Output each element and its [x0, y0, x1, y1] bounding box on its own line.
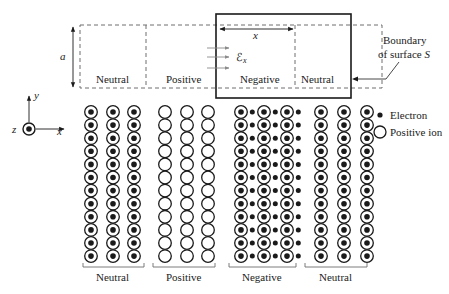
boundary-leader-arrowhead	[352, 77, 358, 82]
coordinate-axes: y x z	[11, 89, 64, 137]
bound-electron-icon	[318, 175, 324, 181]
positive-ion-icon	[159, 132, 172, 145]
excess-electron-icon	[273, 149, 278, 154]
bound-electron-icon	[88, 109, 94, 115]
positive-ion-icon	[202, 197, 215, 210]
bound-electron-icon	[284, 240, 290, 246]
excess-electron-icon	[296, 227, 301, 232]
bound-electron-icon	[341, 227, 347, 233]
positive-ion-icon	[181, 184, 194, 197]
bound-electron-icon	[110, 188, 116, 194]
lattice-group-neutral	[315, 106, 374, 263]
excess-electron-icon	[250, 254, 255, 259]
electron-legend-icon	[377, 112, 382, 117]
region-label-neutral-right: Neutral	[301, 73, 334, 85]
positive-ion-icon	[202, 158, 215, 171]
bound-electron-icon	[110, 227, 116, 233]
bound-electron-icon	[318, 227, 324, 233]
bound-electron-icon	[88, 253, 94, 259]
bound-electron-icon	[364, 135, 370, 141]
bound-electron-icon	[131, 188, 137, 194]
positive-ion-icon	[202, 224, 215, 237]
bound-electron-icon	[238, 253, 244, 259]
bound-electron-icon	[110, 122, 116, 128]
bound-electron-icon	[284, 227, 290, 233]
positive-ion-icon	[181, 211, 194, 224]
bound-electron-icon	[110, 109, 116, 115]
bound-electron-icon	[364, 122, 370, 128]
bound-electron-icon	[261, 122, 267, 128]
electron-legend-label: Electron	[390, 109, 428, 121]
bound-electron-icon	[318, 201, 324, 207]
bound-electron-icon	[110, 135, 116, 141]
excess-electron-icon	[296, 188, 301, 193]
bound-electron-icon	[261, 227, 267, 233]
excess-electron-icon	[250, 188, 255, 193]
bound-electron-icon	[238, 122, 244, 128]
positive-ion-icon	[159, 106, 172, 119]
positive-ion-icon	[202, 250, 215, 263]
bound-electron-icon	[88, 188, 94, 194]
excess-electron-icon	[273, 241, 278, 246]
bound-electron-icon	[284, 135, 290, 141]
bound-electron-icon	[238, 214, 244, 220]
positive-ion-icon	[159, 224, 172, 237]
bound-electron-icon	[318, 109, 324, 115]
y-axis-label: y	[33, 89, 39, 101]
positive-ion-icon	[159, 119, 172, 132]
bracket-neutral-left	[83, 263, 144, 267]
height-label: a	[60, 50, 66, 62]
bound-electron-icon	[364, 253, 370, 259]
bound-electron-icon	[341, 240, 347, 246]
bound-electron-icon	[131, 214, 137, 220]
excess-electron-icon	[296, 149, 301, 154]
bound-electron-icon	[364, 162, 370, 168]
bound-electron-icon	[110, 240, 116, 246]
bound-electron-icon	[88, 175, 94, 181]
excess-electron-icon	[296, 162, 301, 167]
bound-electron-icon	[238, 201, 244, 207]
bound-electron-icon	[341, 162, 347, 168]
excess-electron-icon	[296, 201, 301, 206]
positive-ion-icon	[159, 211, 172, 224]
excess-electron-icon	[273, 175, 278, 180]
positive-ion-icon	[181, 237, 194, 250]
bound-electron-icon	[284, 175, 290, 181]
region-label-negative: Negative	[240, 73, 280, 85]
excess-electron-icon	[273, 214, 278, 219]
bound-electron-icon	[318, 162, 324, 168]
positive-ion-icon	[202, 237, 215, 250]
positive-ion-icon	[159, 250, 172, 263]
excess-electron-icon	[273, 162, 278, 167]
bound-electron-icon	[341, 149, 347, 155]
bound-electron-icon	[261, 201, 267, 207]
excess-electron-icon	[296, 241, 301, 246]
positive-ion-icon	[181, 145, 194, 158]
positive-ion-icon	[181, 224, 194, 237]
bound-electron-icon	[284, 214, 290, 220]
bound-electron-icon	[110, 162, 116, 168]
bound-electron-icon	[238, 162, 244, 168]
bound-electron-icon	[88, 149, 94, 155]
bound-electron-icon	[364, 109, 370, 115]
bound-electron-icon	[318, 149, 324, 155]
bound-electron-icon	[238, 135, 244, 141]
bound-electron-icon	[131, 135, 137, 141]
bound-electron-icon	[284, 162, 290, 168]
bound-electron-icon	[110, 175, 116, 181]
excess-electron-icon	[250, 241, 255, 246]
excess-electron-icon	[273, 254, 278, 259]
bound-electron-icon	[261, 253, 267, 259]
excess-electron-icon	[296, 175, 301, 180]
bound-electron-icon	[364, 214, 370, 220]
lattice-group-negative	[235, 106, 301, 263]
positive-ion-icon	[159, 197, 172, 210]
excess-electron-icon	[250, 175, 255, 180]
bound-electron-icon	[261, 214, 267, 220]
positive-ion-icon	[202, 211, 215, 224]
excess-electron-icon	[296, 136, 301, 141]
excess-electron-icon	[273, 227, 278, 232]
bound-electron-icon	[341, 201, 347, 207]
boundary-leader-arrow	[355, 62, 399, 79]
bound-electron-icon	[88, 162, 94, 168]
